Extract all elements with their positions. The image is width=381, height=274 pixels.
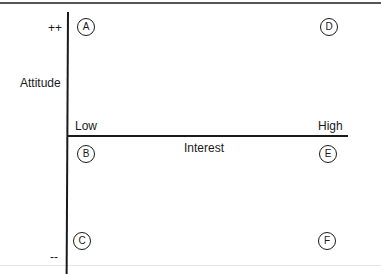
interest-low-label: Low [75, 119, 97, 133]
attitude-high-label: ++ [48, 21, 62, 35]
interest-high-label: High [318, 119, 343, 133]
point-b: B [77, 145, 95, 163]
point-f: F [318, 232, 336, 250]
attitude-axis-label: Attitude [20, 76, 61, 90]
attitude-low-label: -- [50, 250, 58, 264]
interest-axis-label: Interest [184, 141, 224, 155]
attitude-axis [66, 12, 69, 274]
bottom-border-rule [0, 265, 381, 266]
point-d: D [320, 18, 338, 36]
point-e: E [319, 145, 337, 163]
interest-axis [68, 135, 348, 137]
top-border-rule [0, 2, 381, 4]
point-a: A [77, 18, 95, 36]
point-c: C [73, 232, 91, 250]
